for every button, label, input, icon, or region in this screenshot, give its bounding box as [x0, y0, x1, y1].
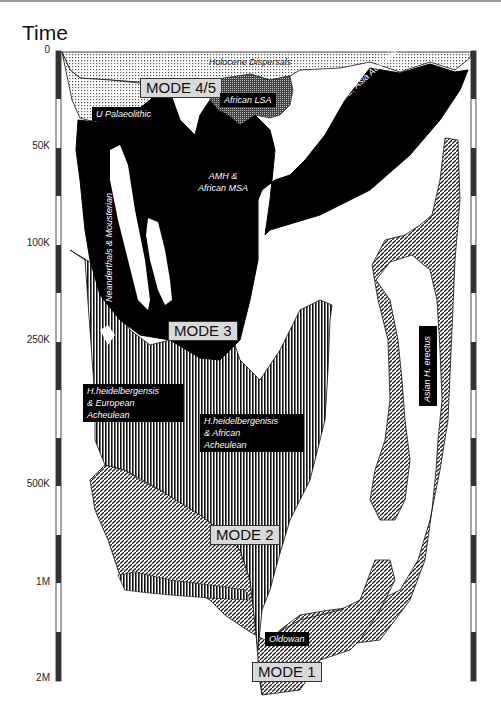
label-holocene-dispersals: Holocene Dispersals [180, 56, 320, 68]
mode-1-label: MODE 1 [252, 662, 322, 682]
label-oldowan: Oldowan [265, 632, 309, 646]
mode-2-label: MODE 2 [210, 525, 280, 545]
label-amh-african-msa: AMH & African MSA [183, 170, 263, 194]
label-upper-palaeolithic: U Palaeolithic [92, 107, 155, 121]
right-scale-bar [471, 51, 476, 681]
mode-4-5-label: MODE 4/5 [140, 78, 222, 98]
label-heidelbergensis-european: H.heidelbergensis & European Acheulean [83, 384, 183, 422]
label-asian-h-erectus: Asian H. erectus [419, 326, 437, 406]
left-scale-bar [56, 51, 61, 681]
mode-3-label: MODE 3 [168, 321, 238, 341]
label-neanderthals-mousterian: Neanderthals & Mousterian [103, 175, 115, 320]
label-african-lsa: African LSA [220, 93, 276, 107]
label-heidelbergensis-african: H.heidelbergenisis & African Acheulean [200, 414, 304, 452]
